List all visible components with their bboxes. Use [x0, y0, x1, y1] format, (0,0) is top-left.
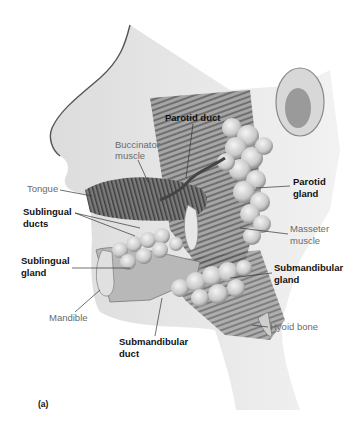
label-hyoid-bone: Hyoid bone: [270, 321, 318, 332]
label-sublingual-ducts-line1: Sublingual: [23, 206, 72, 217]
anatomy-figure: Parotid duct Buccinator muscle Tongue Su…: [0, 0, 359, 425]
label-submandibular-gland-line2: gland: [274, 274, 299, 285]
label-mandible: Mandible: [49, 312, 88, 323]
label-sublingual-gland-line1: Sublingual: [21, 255, 70, 266]
panel-label: (a): [38, 399, 48, 410]
label-sublingual-ducts-line2: ducts: [23, 218, 48, 229]
label-submandibular-gland-line1: Submandibular: [274, 262, 343, 273]
label-sublingual-gland-line2: gland: [21, 267, 46, 278]
label-masseter-line1: Masseter: [290, 223, 329, 234]
label-submandibular-duct-line2: duct: [119, 348, 139, 359]
label-tongue: Tongue: [27, 183, 58, 194]
label-buccinator-line2: muscle: [115, 150, 145, 161]
label-parotid-gland-line1: Parotid: [293, 176, 326, 187]
label-parotid-duct: Parotid duct: [165, 112, 220, 123]
label-masseter-line2: muscle: [290, 235, 320, 246]
label-parotid-gland-line2: gland: [293, 188, 318, 199]
label-submandibular-duct-line1: Submandibular: [119, 336, 188, 347]
label-buccinator-line1: Buccinator: [115, 139, 160, 150]
